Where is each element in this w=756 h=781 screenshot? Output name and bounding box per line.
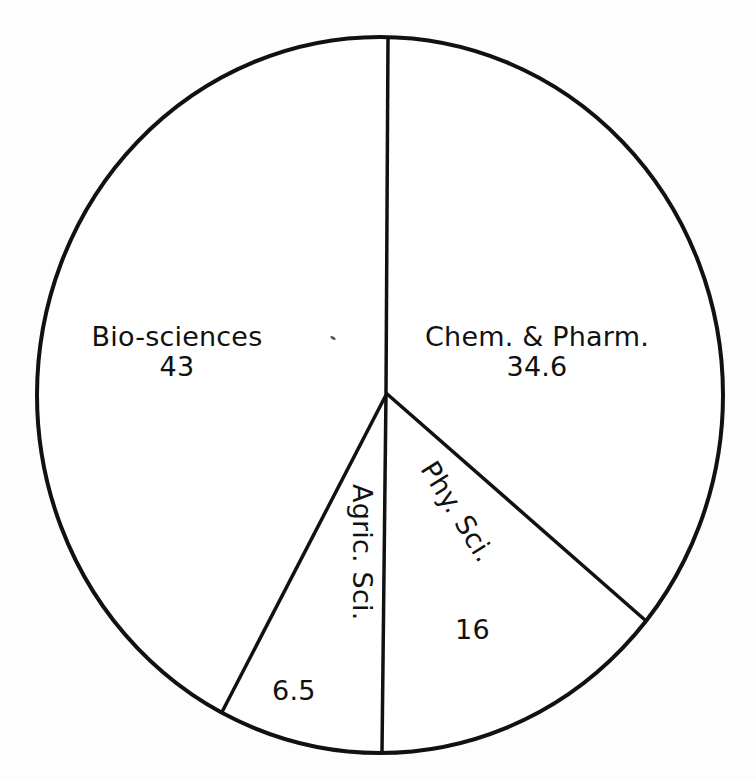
slice-label-bio-sciences: Bio-sciences 43 <box>62 322 292 382</box>
pie-outline <box>37 37 723 753</box>
slice-label-chem-pharm: Chem. & Pharm. 34.6 <box>392 322 682 382</box>
slice-label-agric-sci-value: 6.5 <box>272 676 316 706</box>
slice-label-agric-sci-name: Agric. Sci. <box>347 484 377 621</box>
slice-value: 34.6 <box>392 352 682 382</box>
slice-value: 43 <box>62 352 292 382</box>
slice-name: Bio-sciences <box>62 322 292 352</box>
slice-name: Chem. & Pharm. <box>392 322 682 352</box>
pie-chart <box>0 0 756 781</box>
slice-label-phy-sci-value: 16 <box>455 615 490 645</box>
divider-top <box>386 38 388 393</box>
